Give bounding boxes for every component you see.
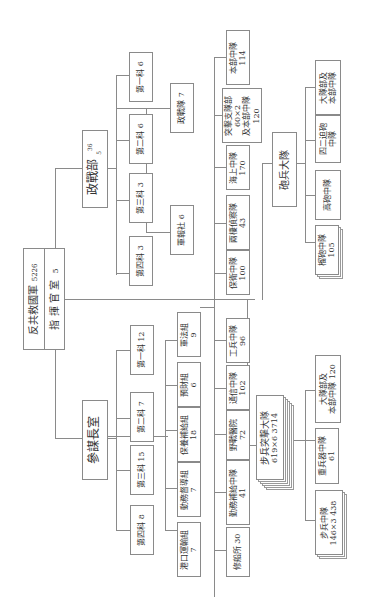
value: 7: [189, 470, 198, 510]
connector: [214, 434, 226, 435]
label: 動務督導組: [180, 470, 189, 510]
assault-detachment-box: 突擊支隊部60×2及本部中隊120: [222, 88, 262, 143]
staff-section-1: 第一科 12: [130, 325, 154, 375]
connector: [214, 57, 215, 307]
connector: [214, 57, 226, 58]
connector: [108, 168, 116, 169]
infantry-assault-battalion-box: 步兵突擊大隊619×6 3714: [256, 395, 284, 480]
label: 第一科 12: [137, 332, 146, 369]
label: 第三科 15: [137, 452, 146, 489]
value: 120: [251, 96, 260, 136]
label: 突擊支隊部: [224, 96, 233, 136]
value: 146×3 438: [329, 500, 338, 545]
howitzer-company-box: 榴砲中隊105: [315, 225, 339, 275]
value: 6: [189, 373, 198, 397]
label: 保養補給組: [180, 415, 189, 455]
supply-group-box: 保養補給組18: [177, 407, 201, 462]
connector: [305, 87, 315, 88]
connector: [214, 273, 226, 274]
commander-office-box: 指 揮 官 室 5: [44, 248, 65, 350]
value: 18: [189, 415, 198, 455]
label: 第一科 6: [136, 61, 145, 93]
root-title: 反共救國軍: [28, 285, 39, 335]
label: 本部中隊 120: [328, 364, 337, 414]
label: 軍報社 6: [177, 214, 186, 246]
label: 步兵突擊大隊: [260, 411, 270, 465]
connector: [146, 232, 171, 233]
connector: [116, 140, 130, 141]
label: 大隊部及: [319, 364, 328, 414]
label: 第二科 6: [136, 123, 145, 155]
label: 參謀長室: [88, 416, 102, 464]
connector: [55, 438, 83, 439]
connector: [262, 163, 263, 300]
label: 政戰隊 7: [177, 92, 186, 124]
field-hospital-box: 野戰醫院72: [226, 410, 250, 460]
connector: [214, 492, 226, 493]
value: 7: [189, 530, 198, 570]
connector: [165, 430, 177, 431]
label: 及本部中隊: [242, 96, 251, 136]
service-supply-company-box: 勤務補給中隊41: [226, 460, 250, 525]
connector: [116, 273, 130, 274]
connector: [305, 242, 315, 243]
recon-box: 兩棲偵察隊43: [226, 195, 250, 250]
legal-group-box: 軍法組9: [177, 312, 201, 357]
connector: [214, 223, 226, 224]
value: 61: [327, 436, 336, 476]
connector: [200, 307, 214, 308]
engineer-company-box: 工兵中隊96: [226, 318, 250, 363]
political-section-2: 第二科 6: [129, 114, 153, 164]
label: 榴砲中隊: [318, 234, 327, 266]
connector: [165, 530, 177, 531]
label: 軍法組: [180, 323, 189, 347]
connector: [290, 440, 305, 441]
root-value: 5226: [31, 263, 39, 281]
political-sub: 5: [95, 151, 102, 155]
mortar-company-box: 四二迫砲中隊: [315, 115, 341, 163]
connector: [116, 75, 130, 76]
political-title: 政戰部: [86, 159, 100, 195]
news-agency-box: 軍報社 6: [170, 205, 194, 255]
artillery-battalion-box: 砲兵大隊: [272, 132, 297, 207]
connector: [165, 488, 177, 489]
connector: [116, 350, 130, 351]
connector: [165, 385, 177, 386]
ship-repair-box: 修船所 30: [226, 527, 250, 577]
label: 四二迫砲: [319, 123, 328, 155]
label: 第四科 3: [136, 245, 145, 277]
hq-company-box: 本部中隊114: [226, 30, 250, 85]
political-value: 36: [86, 143, 93, 151]
connector: [116, 418, 130, 419]
connector: [214, 340, 226, 341]
political-section-1: 第一科 6: [129, 52, 153, 102]
value: 96: [238, 325, 247, 357]
staff-section-3: 第三科 15: [130, 445, 154, 495]
heavy-weapons-company-box: 重兵器中隊61: [315, 428, 339, 484]
staff-section-4: 第四科 8: [130, 505, 154, 555]
label: 野戰醫院: [229, 419, 238, 451]
connector: [214, 388, 226, 389]
value: 102: [238, 372, 247, 404]
value: 9: [189, 323, 198, 347]
inspection-group-box: 動務督導組7: [177, 462, 201, 517]
label: 工兵中隊: [229, 325, 238, 357]
label: 修船所 30: [233, 534, 242, 571]
budget-group-box: 預財組6: [177, 362, 201, 407]
connector: [108, 438, 116, 439]
infantry-hq-box: 大隊部及本部中隊 120: [315, 355, 341, 423]
connector: [305, 195, 315, 196]
value: 72: [238, 419, 247, 451]
value: 105: [327, 234, 336, 266]
staff-section-2: 第二科 7: [130, 392, 154, 442]
connector: [214, 167, 226, 168]
label: 預財組: [180, 373, 189, 397]
guard-company-box: 保衛中隊100: [226, 250, 250, 295]
label: 保衛中隊: [229, 257, 238, 289]
value: 41: [238, 469, 247, 517]
value: 60×2: [233, 96, 242, 136]
sea-company-box: 海上中隊170: [226, 145, 250, 190]
signal-company-box: 通信中隊102: [226, 365, 250, 410]
connector: [116, 75, 117, 275]
office-title: 指 揮 官 室: [49, 280, 60, 330]
